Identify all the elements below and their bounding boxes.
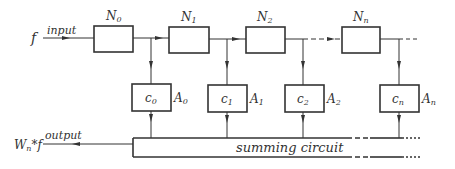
coefficient-block-n: cn An [380, 85, 436, 112]
coefficient-block-0: c0 A0 [132, 84, 188, 111]
svg-text:A2: A2 [326, 92, 341, 107]
svg-text:An: An [421, 92, 436, 107]
coefficient-block-2: c2 A2 [285, 85, 341, 112]
output-signal: output Wn*f [14, 129, 133, 153]
tap-arrow-icons [149, 61, 401, 69]
svg-text:A0: A0 [173, 91, 188, 106]
output-arrow-icon [72, 142, 80, 146]
input-label: input [47, 24, 77, 37]
sum-feed-lines [151, 111, 399, 138]
summing-circuit-label: summing circuit [236, 140, 344, 155]
svg-text:N1: N1 [180, 10, 197, 25]
coefficient-block-1: c1 A1 [208, 85, 264, 112]
svg-text:A1: A1 [249, 92, 264, 107]
delay-block-2: N2 [246, 10, 285, 53]
input-signal: f input [30, 24, 94, 46]
delay-block-1: N1 [169, 10, 209, 53]
svg-text:N0: N0 [105, 9, 122, 24]
sum-feed-arrow-icons [149, 114, 401, 123]
svg-text:N2: N2 [256, 10, 273, 25]
svg-text:Nn: Nn [352, 10, 369, 25]
delay-block-n: Nn [342, 10, 380, 53]
input-symbol: f [30, 30, 39, 46]
delay-block-0: N0 [94, 9, 133, 52]
output-label: output [45, 129, 82, 142]
output-symbol: Wn*f [14, 138, 45, 153]
transversal-filter-diagram: f input N0 N1 N2 Nn [0, 0, 455, 169]
